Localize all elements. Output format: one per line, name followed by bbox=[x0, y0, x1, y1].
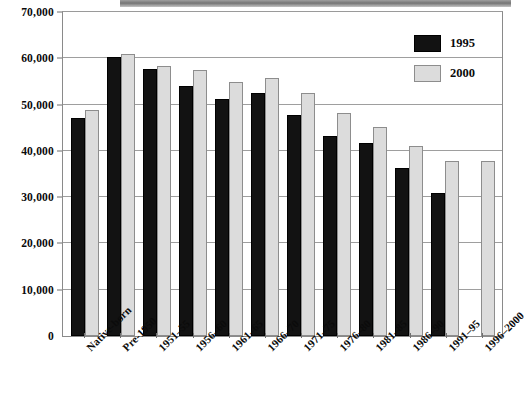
x-axis-slot: 1996–2000 bbox=[464, 338, 500, 404]
bar-1995-Native-born bbox=[71, 118, 85, 336]
bar-group bbox=[67, 12, 103, 336]
legend-swatch-2000 bbox=[414, 65, 441, 82]
y-axis: 010,00020,00030,00040,00050,00060,00070,… bbox=[0, 0, 62, 348]
x-axis-slot: 1981–85 bbox=[355, 338, 391, 404]
y-tick-label-0: 0 bbox=[48, 330, 54, 342]
legend-label-1995: 1995 bbox=[450, 36, 475, 51]
x-axis-slot: 1951–55 bbox=[138, 338, 174, 404]
bar-1995-1951–55 bbox=[143, 69, 157, 336]
bar-2000-1971–75 bbox=[301, 93, 315, 336]
bar-1995-Pre-1950 bbox=[107, 57, 121, 336]
bar-group bbox=[139, 12, 175, 336]
bar-2000-1976–80 bbox=[337, 113, 351, 336]
y-tick-label-20000: 20,000 bbox=[21, 237, 54, 249]
bar-group bbox=[355, 12, 391, 336]
x-tick-mark bbox=[410, 333, 411, 338]
chart-legend: 19952000 bbox=[414, 32, 504, 92]
x-axis-slot: Pre-1950 bbox=[102, 338, 138, 404]
bar-1995-1956–60 bbox=[179, 86, 193, 336]
bar-2000-1966–70 bbox=[265, 78, 279, 336]
bar-group bbox=[175, 12, 211, 336]
bar-2000-1961–65 bbox=[229, 82, 243, 336]
bar-1995-1971–75 bbox=[287, 115, 301, 336]
y-tick-label-60000: 60,000 bbox=[21, 52, 54, 64]
x-tick-mark bbox=[120, 333, 121, 338]
x-tick-mark bbox=[301, 333, 302, 338]
legend-item-2000: 2000 bbox=[414, 62, 504, 84]
bar-1995-1976–80 bbox=[323, 136, 337, 336]
x-axis-slot: 1986–90 bbox=[392, 338, 428, 404]
bar-group bbox=[319, 12, 355, 336]
x-axis-slot: 1956–60 bbox=[175, 338, 211, 404]
x-tick-mark bbox=[265, 333, 266, 338]
legend-item-1995: 1995 bbox=[414, 32, 504, 54]
bar-2000-1991–95 bbox=[445, 161, 459, 336]
y-tick-label-10000: 10,000 bbox=[21, 284, 54, 296]
x-axis-slot: 1991–95 bbox=[428, 338, 464, 404]
x-tick-mark bbox=[446, 333, 447, 338]
x-axis-slot: 1961–65 bbox=[211, 338, 247, 404]
bar-1995-1991–95 bbox=[431, 193, 445, 336]
x-tick-mark bbox=[84, 333, 85, 338]
x-tick-mark bbox=[373, 333, 374, 338]
bar-2000-1981–85 bbox=[373, 127, 387, 336]
bar-group bbox=[247, 12, 283, 336]
bar-2000-1996–2000 bbox=[481, 161, 495, 336]
bar-2000-1986–90 bbox=[409, 146, 423, 336]
bar-group bbox=[283, 12, 319, 336]
y-tick-label-70000: 70,000 bbox=[21, 6, 54, 18]
x-axis-slot: Native-born bbox=[66, 338, 102, 404]
x-axis-slot: 1971–75 bbox=[283, 338, 319, 404]
x-axis-slot: 1966–70 bbox=[247, 338, 283, 404]
bar-2000-1956–60 bbox=[193, 70, 207, 336]
bar-1995-1981–85 bbox=[359, 143, 373, 336]
bar-2000-Pre-1950 bbox=[121, 54, 135, 336]
y-tick-label-30000: 30,000 bbox=[21, 191, 54, 203]
legend-swatch-1995 bbox=[414, 35, 441, 52]
x-tick-mark bbox=[156, 333, 157, 338]
bar-2000-Native-born bbox=[85, 110, 99, 336]
bar-1995-1986–90 bbox=[395, 168, 409, 336]
bar-group bbox=[103, 12, 139, 336]
x-tick-mark bbox=[337, 333, 338, 338]
bar-1995-1961–65 bbox=[215, 99, 229, 336]
x-tick-mark bbox=[193, 333, 194, 338]
x-tick-mark bbox=[482, 333, 483, 338]
y-tick-label-40000: 40,000 bbox=[21, 145, 54, 157]
bar-group bbox=[211, 12, 247, 336]
legend-label-2000: 2000 bbox=[450, 66, 475, 81]
bar-2000-1951–55 bbox=[157, 66, 171, 336]
x-tick-mark bbox=[229, 333, 230, 338]
x-axis: Native-bornPre-19501951–551956–601961–65… bbox=[62, 338, 503, 404]
bar-1995-1966–70 bbox=[251, 93, 265, 336]
x-axis-slot: 1976–80 bbox=[319, 338, 355, 404]
y-tick-label-50000: 50,000 bbox=[21, 99, 54, 111]
